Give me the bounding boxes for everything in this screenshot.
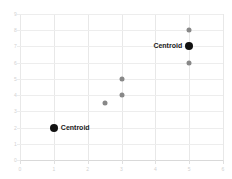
centroid-annotation-label: Centroid [153, 42, 182, 50]
y-tick [17, 111, 20, 112]
scatter-chart: 0123456 0123456789 CentroidCentroid [0, 0, 232, 179]
x-tick [223, 160, 224, 164]
y-tick [17, 46, 20, 47]
x-tick-label: 3 [120, 166, 123, 172]
y-tick [17, 30, 20, 31]
gridline-horizontal [20, 63, 223, 64]
gridline-vertical [88, 14, 89, 160]
y-tick [17, 144, 20, 145]
x-tick-label: 6 [222, 166, 225, 172]
y-tick-label: 9 [14, 11, 17, 17]
centroid-point [185, 42, 193, 50]
plot-area [20, 14, 223, 160]
centroid-annotation-label: Centroid [61, 124, 90, 132]
gridline-vertical [54, 14, 55, 160]
y-tick [17, 63, 20, 64]
y-tick-label: 3 [14, 108, 17, 114]
gridline-horizontal [20, 111, 223, 112]
y-tick [17, 14, 20, 15]
x-tick-label: 2 [86, 166, 89, 172]
x-tick [122, 160, 123, 164]
gridline-horizontal [20, 144, 223, 145]
y-tick [17, 128, 20, 129]
gridline-vertical [20, 14, 21, 160]
y-tick [17, 95, 20, 96]
y-tick-label: 0 [14, 157, 17, 163]
data-point [119, 76, 124, 81]
gridline-horizontal [20, 14, 223, 15]
y-tick-label: 4 [14, 92, 17, 98]
x-tick [155, 160, 156, 164]
x-tick [88, 160, 89, 164]
centroid-point [50, 124, 58, 132]
x-tick [189, 160, 190, 164]
x-tick-label: 0 [19, 166, 22, 172]
data-point [102, 101, 107, 106]
y-tick-label: 1 [14, 141, 17, 147]
x-tick-label: 1 [52, 166, 55, 172]
y-tick-label: 5 [14, 76, 17, 82]
y-tick [17, 160, 20, 161]
x-tick [20, 160, 21, 164]
gridline-horizontal [20, 30, 223, 31]
x-tick [54, 160, 55, 164]
y-tick-label: 2 [14, 125, 17, 131]
gridline-vertical [155, 14, 156, 160]
y-tick [17, 79, 20, 80]
gridline-vertical [223, 14, 224, 160]
y-tick-label: 6 [14, 60, 17, 66]
gridline-vertical [122, 14, 123, 160]
data-point [187, 60, 192, 65]
data-point [119, 93, 124, 98]
gridline-vertical [189, 14, 190, 160]
y-tick-label: 8 [14, 27, 17, 33]
x-tick-label: 5 [188, 166, 191, 172]
data-point [187, 28, 192, 33]
x-tick-label: 4 [154, 166, 157, 172]
y-tick-label: 7 [14, 43, 17, 49]
